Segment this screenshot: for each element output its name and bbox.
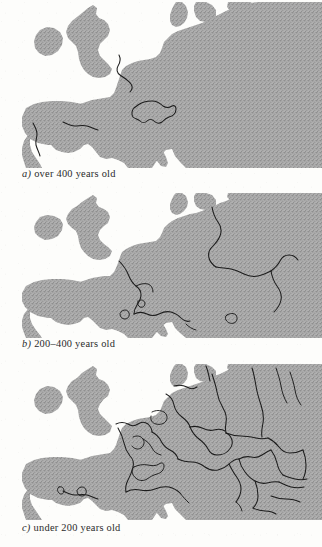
map-b-200-400-years [0,191,322,338]
landmass-c [22,364,322,520]
map-c-under-200-years [0,362,322,520]
panel-b: b)200–400 years old [0,191,322,338]
panel-c: c)under 200 years old [0,362,322,520]
caption-a-label: a) [22,168,31,179]
caption-a-text: over 400 years old [34,168,116,179]
caption-a: a)over 400 years old [22,168,116,179]
caption-b-label: b) [22,338,31,349]
caption-c: c)under 200 years old [22,522,121,533]
caption-c-text: under 200 years old [34,522,121,533]
panel-a: a)over 400 years old [0,0,322,168]
landmass-a [22,2,322,168]
caption-b: b)200–400 years old [22,338,115,349]
caption-c-label: c) [22,522,31,533]
map-a-over-400-years [0,0,322,168]
figure-europe-border-ages: a)over 400 years old [0,0,322,547]
caption-b-text: 200–400 years old [34,338,115,349]
